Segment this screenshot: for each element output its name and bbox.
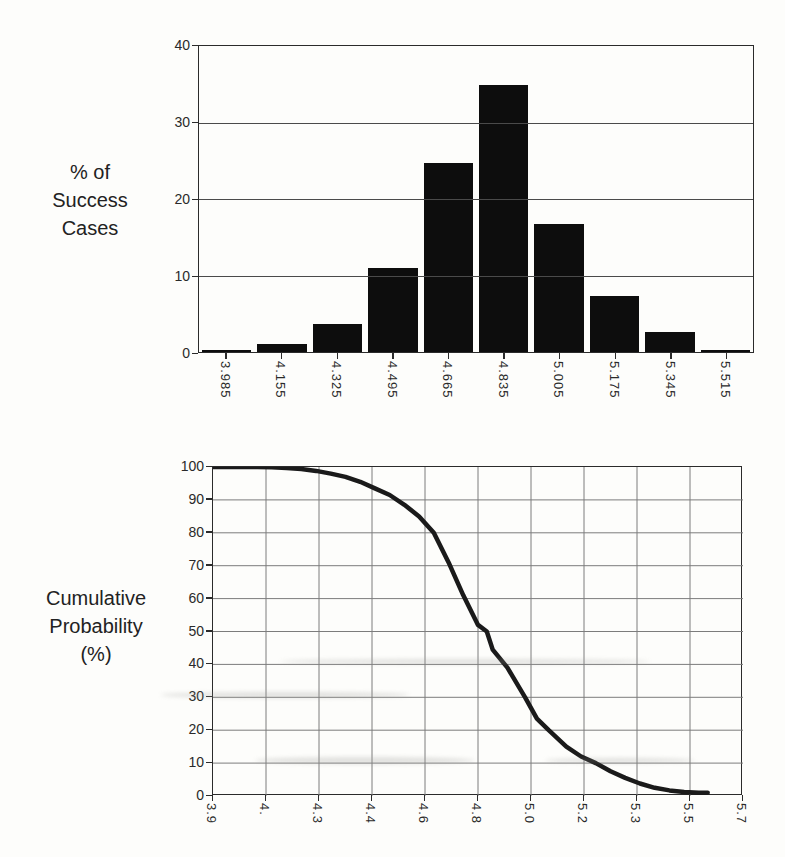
cdf-x-tick: [583, 795, 585, 801]
histogram-bar: [534, 224, 583, 352]
cdf-plot-area: [212, 466, 742, 795]
histogram-gridline: [199, 276, 753, 277]
histogram-bar: [368, 268, 417, 352]
cdf-x-tick: [212, 795, 214, 801]
cdf-x-tick-label: 4.3: [310, 803, 325, 824]
cdf-y-axis-title-line1: Cumulative: [12, 584, 180, 612]
cdf-x-tick: [424, 795, 426, 801]
histogram-gridline: [199, 123, 753, 124]
cdf-y-axis-title: Cumulative Probability (%): [12, 584, 180, 668]
cdf-y-tick: [206, 762, 212, 764]
cdf-x-tick-label: 4.4: [363, 803, 378, 824]
histogram-x-tick: [337, 353, 339, 359]
histogram-plot-area: [198, 45, 754, 353]
cdf-x-tick-label: 3.9: [204, 803, 219, 824]
histogram-y-axis-title-line2: Success: [14, 186, 166, 214]
cdf-y-tick: [206, 729, 212, 731]
histogram-x-tick: [448, 353, 450, 359]
histogram-bar: [701, 350, 750, 352]
histogram-x-tick-label: 5.515: [718, 361, 733, 399]
histogram-x-tick-label: 3.985: [218, 361, 233, 399]
histogram-y-tick-label: 20: [146, 190, 190, 208]
histogram-x-tick: [281, 353, 283, 359]
histogram-y-tick-label: 10: [146, 267, 190, 285]
cdf-y-tick-label: 30: [160, 687, 204, 705]
histogram-y-tick: [192, 353, 198, 355]
histogram-x-tick-label: 4.835: [496, 361, 511, 399]
cdf-y-tick: [206, 663, 212, 665]
cdf-y-tick-label: 70: [160, 556, 204, 574]
cdf-x-tick: [371, 795, 373, 801]
histogram-x-tick-label: 4.665: [440, 361, 455, 399]
cdf-y-tick: [206, 597, 212, 599]
histogram-gridline: [199, 199, 753, 200]
histogram-x-tick: [670, 353, 672, 359]
histogram-x-tick: [392, 353, 394, 359]
cdf-y-tick-label: 100: [160, 457, 204, 475]
cdf-x-tick: [265, 795, 267, 801]
cdf-curve-canvas: [213, 467, 743, 796]
histogram-y-tick: [192, 199, 198, 201]
histogram-x-tick: [726, 353, 728, 359]
cdf-y-tick: [206, 466, 212, 468]
cdf-y-tick-label: 10: [160, 753, 204, 771]
histogram-bar: [645, 332, 694, 352]
histogram-x-tick-label: 4.155: [273, 361, 288, 399]
cdf-x-tick-label: 5.2: [575, 803, 590, 824]
cdf-x-tick-label: 5.0: [522, 803, 537, 824]
cdf-x-tick-label: 4.: [257, 803, 272, 816]
histogram-y-tick-label: 40: [146, 36, 190, 54]
histogram-bar: [479, 85, 528, 352]
histogram-y-tick: [192, 122, 198, 124]
histogram-x-tick: [559, 353, 561, 359]
cdf-x-tick-label: 4.6: [416, 803, 431, 824]
histogram-y-tick: [192, 45, 198, 47]
cdf-x-tick: [742, 795, 744, 801]
cdf-x-tick-label: 4.8: [469, 803, 484, 824]
histogram-x-tick-label: 4.495: [385, 361, 400, 399]
histogram-x-tick-label: 4.325: [329, 361, 344, 399]
cdf-x-tick: [689, 795, 691, 801]
histogram-y-axis-title: % of Success Cases: [14, 158, 166, 242]
histogram-x-tick: [225, 353, 227, 359]
histogram-x-tick: [615, 353, 617, 359]
histogram-x-tick-label: 5.175: [607, 361, 622, 399]
cdf-y-tick-label: 60: [160, 589, 204, 607]
histogram-x-tick-label: 5.345: [663, 361, 678, 399]
cdf-curve: [213, 467, 708, 793]
cdf-y-tick-label: 80: [160, 523, 204, 541]
cdf-x-tick: [318, 795, 320, 801]
cdf-y-tick: [206, 564, 212, 566]
cdf-y-tick: [206, 498, 212, 500]
histogram-x-tick: [503, 353, 505, 359]
histogram-y-tick-label: 0: [146, 344, 190, 362]
cdf-x-tick: [636, 795, 638, 801]
cdf-x-tick-label: 5.3: [628, 803, 643, 824]
cdf-y-axis-title-line2: Probability: [12, 612, 180, 640]
cdf-y-tick: [206, 630, 212, 632]
cdf-x-tick-label: 5.5: [681, 803, 696, 824]
cdf-y-tick: [206, 531, 212, 533]
histogram-y-tick-label: 30: [146, 113, 190, 131]
histogram-y-axis-title-line1: % of: [14, 158, 166, 186]
cdf-y-tick-label: 40: [160, 654, 204, 672]
cdf-y-axis-title-line3: (%): [12, 640, 180, 668]
histogram-y-tick: [192, 276, 198, 278]
cdf-y-tick-label: 20: [160, 720, 204, 738]
histogram-x-tick-label: 5.005: [551, 361, 566, 399]
histogram-bar: [257, 344, 306, 352]
cdf-x-tick-label: 5.7: [734, 803, 749, 824]
histogram-bar: [424, 163, 473, 352]
scanned-figure-page: % of Success Cases 0102030403.9854.1554.…: [0, 0, 785, 857]
histogram-bar: [590, 296, 639, 352]
cdf-y-tick-label: 90: [160, 490, 204, 508]
histogram-y-axis-title-line3: Cases: [14, 214, 166, 242]
cdf-y-tick-label: 50: [160, 622, 204, 640]
histogram-bar: [313, 324, 362, 352]
cdf-x-tick: [530, 795, 532, 801]
histogram-bar: [202, 350, 251, 352]
cdf-x-tick: [477, 795, 479, 801]
cdf-y-tick: [206, 696, 212, 698]
cdf-y-tick-label: 0: [160, 786, 204, 804]
